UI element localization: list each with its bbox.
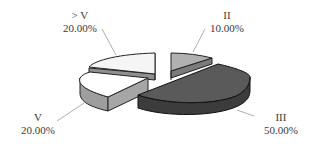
label-greater-than-v-name: > V bbox=[63, 9, 97, 22]
label-v: V 20.00% bbox=[21, 111, 55, 137]
label-v-pct: 20.00% bbox=[21, 124, 55, 137]
label-greater-than-v-pct: 20.00% bbox=[63, 22, 97, 35]
label-ii: II 10.00% bbox=[210, 9, 244, 35]
label-v-name: V bbox=[21, 111, 55, 124]
label-greater-than-v: > V 20.00% bbox=[63, 9, 97, 35]
label-iii-pct: 50.00% bbox=[264, 124, 298, 137]
label-iii-name: III bbox=[264, 111, 298, 124]
label-iii: III 50.00% bbox=[264, 111, 298, 137]
label-ii-pct: 10.00% bbox=[210, 22, 244, 35]
label-ii-name: II bbox=[210, 9, 244, 22]
